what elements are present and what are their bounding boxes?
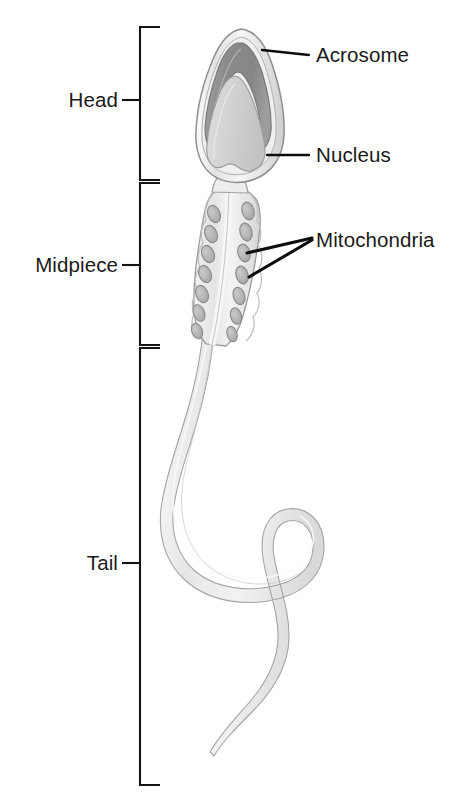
callout-label-acrosome: Acrosome: [316, 43, 409, 66]
diagram-canvas: HeadMidpieceTail AcrosomeNucleusMitochon…: [0, 0, 457, 810]
callout-nucleus: Nucleus: [267, 143, 391, 166]
callout-label-nucleus: Nucleus: [316, 143, 391, 166]
region-label-head: Head: [69, 88, 118, 111]
bracket-midpiece: Midpiece: [35, 183, 160, 345]
bracket-line-midpiece: [140, 183, 160, 345]
sperm-tail: [160, 329, 324, 756]
sperm-cell-illustration: [160, 29, 324, 756]
region-label-tail: Tail: [87, 551, 118, 574]
callout-label-mitochondria: Mitochondria: [316, 228, 435, 251]
sperm-anatomy-diagram: HeadMidpieceTail AcrosomeNucleusMitochon…: [0, 0, 457, 810]
bracket-head: Head: [69, 27, 160, 180]
tail-body-shape: [160, 329, 324, 756]
tail-highlight-line: [173, 335, 313, 578]
callout-acrosome: Acrosome: [262, 43, 409, 66]
region-brackets-group: HeadMidpieceTail: [35, 27, 160, 785]
bracket-line-head: [140, 27, 160, 180]
region-label-midpiece: Midpiece: [35, 253, 118, 276]
callout-mitochondria: Mitochondria: [247, 228, 435, 277]
bracket-tail: Tail: [87, 348, 160, 785]
bracket-line-tail: [140, 348, 160, 785]
